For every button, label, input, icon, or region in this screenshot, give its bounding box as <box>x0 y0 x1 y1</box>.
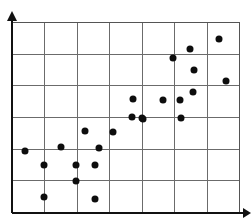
data-point <box>140 116 147 123</box>
data-point <box>187 46 194 53</box>
data-point-group <box>22 36 230 203</box>
data-point <box>170 55 177 62</box>
data-point <box>177 97 184 104</box>
grid-lines <box>13 23 240 213</box>
data-point <box>190 89 197 96</box>
data-point <box>96 145 103 152</box>
data-point <box>223 78 230 85</box>
data-point <box>129 114 136 121</box>
data-point <box>191 67 198 74</box>
scatter-plot-canvas <box>0 0 252 222</box>
data-point <box>82 128 89 135</box>
data-point <box>73 162 80 169</box>
data-point <box>110 129 117 136</box>
data-point <box>130 96 137 103</box>
data-point <box>216 36 223 43</box>
data-point <box>92 162 99 169</box>
data-point <box>22 148 29 155</box>
data-point <box>178 115 185 122</box>
scatter-plot-figure <box>0 0 252 222</box>
up-arrow-icon <box>7 11 17 21</box>
data-point <box>92 196 99 203</box>
data-point <box>58 144 65 151</box>
data-point <box>41 162 48 169</box>
data-point <box>73 178 80 185</box>
data-point <box>41 194 48 201</box>
data-point <box>160 97 167 104</box>
right-arrow-icon <box>243 208 251 218</box>
